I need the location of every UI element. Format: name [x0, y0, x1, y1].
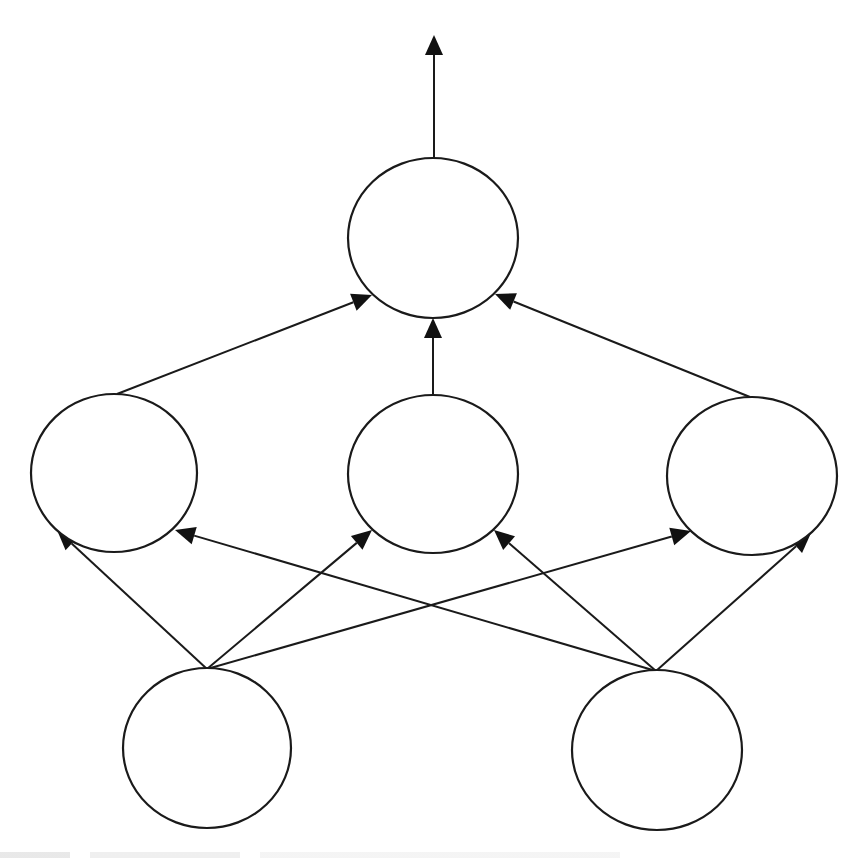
edge-in1-to-h2: [207, 530, 372, 669]
nodes: [31, 158, 837, 830]
connection-line: [514, 301, 750, 397]
arrowhead-icon: [494, 530, 515, 550]
connection-line: [117, 302, 353, 394]
connection-line: [207, 536, 672, 669]
edge-h3-to-out: [495, 293, 750, 397]
neural-network-diagram: [0, 0, 866, 858]
cropped-caption-fragment: [0, 852, 620, 858]
edge-in2-to-h2: [494, 530, 656, 671]
output-node-out: [348, 158, 518, 318]
input-node-in2: [572, 670, 742, 830]
connection-line: [194, 536, 656, 671]
edge-h2-to-out: [424, 318, 442, 395]
arrowhead-icon: [175, 527, 197, 544]
hidden-node-h3: [667, 397, 837, 555]
hidden-node-h1: [31, 394, 197, 552]
hidden-node-h2: [348, 395, 518, 553]
arrowhead-icon: [350, 294, 372, 311]
connection-line: [72, 544, 207, 669]
arrowhead-icon: [669, 528, 691, 545]
arrowhead-icon: [424, 318, 442, 338]
input-node-in1: [123, 668, 291, 828]
arrowhead-icon: [351, 530, 372, 550]
connection-line: [656, 546, 796, 671]
edges: [57, 35, 811, 671]
edge-out-to-output-signal: [425, 35, 443, 159]
arrowhead-icon: [425, 35, 443, 55]
edge-h1-to-out: [117, 294, 372, 394]
